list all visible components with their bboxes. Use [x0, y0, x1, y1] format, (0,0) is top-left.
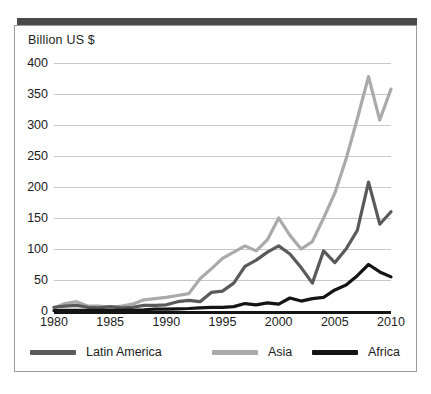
legend-item[interactable]: Latin America	[30, 341, 162, 363]
legend-label: Africa	[368, 345, 400, 359]
x-tick-label: 2005	[321, 315, 349, 329]
legend-swatch-icon	[30, 350, 76, 355]
y-tick-label: 300	[27, 118, 48, 132]
legend-label: Latin America	[86, 345, 162, 359]
chart-legend: Latin AmericaAsiaAfrica	[22, 341, 410, 363]
y-tick-label: 400	[27, 56, 48, 70]
series-line	[54, 77, 391, 308]
x-tick-label: 1985	[96, 315, 124, 329]
legend-item[interactable]: Africa	[312, 341, 400, 363]
y-tick-label: 350	[27, 87, 48, 101]
legend-label: Asia	[268, 345, 292, 359]
x-axis-baseline	[54, 311, 391, 314]
y-tick-label: 150	[27, 211, 48, 225]
x-tick-label: 2010	[377, 315, 405, 329]
x-tick-label: 1990	[152, 315, 180, 329]
x-tick-label: 1995	[209, 315, 237, 329]
plot-area: 400350300250200150100500 198019851990199…	[54, 63, 391, 311]
chart-figure: Billion US $ 400350300250200150100500 19…	[0, 0, 431, 394]
y-tick-label: 100	[27, 242, 48, 256]
legend-item[interactable]: Asia	[212, 341, 292, 363]
y-tick-label: 50	[34, 273, 48, 287]
y-tick-label: 200	[27, 180, 48, 194]
x-tick-label: 2000	[265, 315, 293, 329]
x-tick-label: 1980	[40, 315, 68, 329]
legend-swatch-icon	[212, 350, 258, 355]
y-axis-title: Billion US $	[28, 33, 95, 47]
legend-swatch-icon	[312, 350, 358, 355]
y-tick-label: 250	[27, 149, 48, 163]
series-lines	[54, 63, 391, 311]
series-line	[54, 265, 391, 311]
